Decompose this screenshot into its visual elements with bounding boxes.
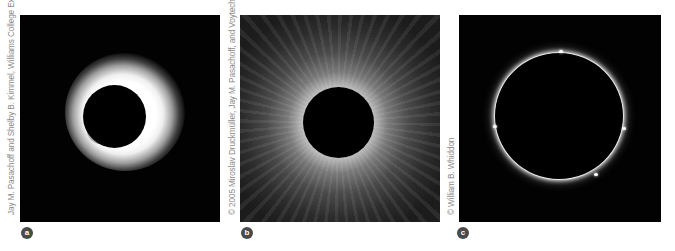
prominence-spot — [594, 173, 598, 176]
panel-label-b: b — [241, 227, 253, 239]
photo-credit-b: © 2005 Miroslav Druckmüller, Jay M. Pasa… — [228, 0, 237, 215]
photo-credit-c: © William B. Whiddon — [447, 138, 456, 215]
moon-disk — [83, 85, 146, 148]
eclipse-photo-c — [459, 15, 661, 222]
prominence-spot — [493, 125, 497, 128]
prominence-spot — [622, 127, 626, 130]
eclipse-photo-b — [240, 15, 440, 222]
panel-label-a: a — [21, 227, 33, 239]
chromosphere-ring — [494, 52, 624, 180]
photo-credit-a: Jay M. Pasachoff and Shelby B. Kimmel, W… — [7, 0, 16, 215]
prominence-spot — [559, 50, 563, 53]
moon-disk — [303, 87, 374, 158]
panel-label-c: c — [457, 227, 469, 239]
eclipse-photo-a — [20, 15, 220, 222]
